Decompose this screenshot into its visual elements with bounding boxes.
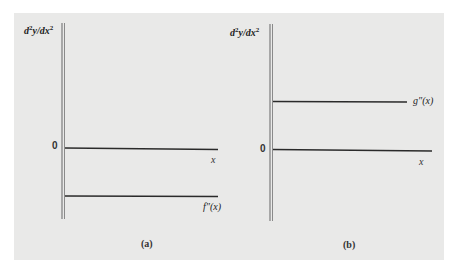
panel-a-zero-label: 0 (52, 140, 58, 151)
panel-b-zero-label: 0 (260, 143, 266, 154)
panel-b-function-label: g″(x) (413, 95, 433, 106)
panel-b-caption: (b) (343, 239, 355, 250)
panel-b-function-line (273, 102, 407, 103)
panel-a-function-label: f″(x) (203, 201, 221, 212)
panel-b-y-axis-label: d2y/dx2 (230, 26, 259, 38)
panel-a-zero-line (65, 148, 218, 150)
panel-b-x-axis-label: x (419, 156, 423, 167)
panel-b-zero-line (273, 150, 432, 152)
panel-b-y-axis (270, 24, 273, 221)
panel-a-function-line (65, 196, 218, 197)
panel-a-x-axis-label: x (211, 154, 215, 165)
figure-lines (0, 0, 456, 276)
figure: d2y/dx2 0 x f″(x) (a) d2y/dx2 0 x g″(x) … (0, 0, 456, 276)
panel-a-y-axis (62, 23, 65, 219)
panel-a-y-axis-label: d2y/dx2 (24, 24, 53, 36)
panel-a-caption: (a) (141, 238, 153, 249)
